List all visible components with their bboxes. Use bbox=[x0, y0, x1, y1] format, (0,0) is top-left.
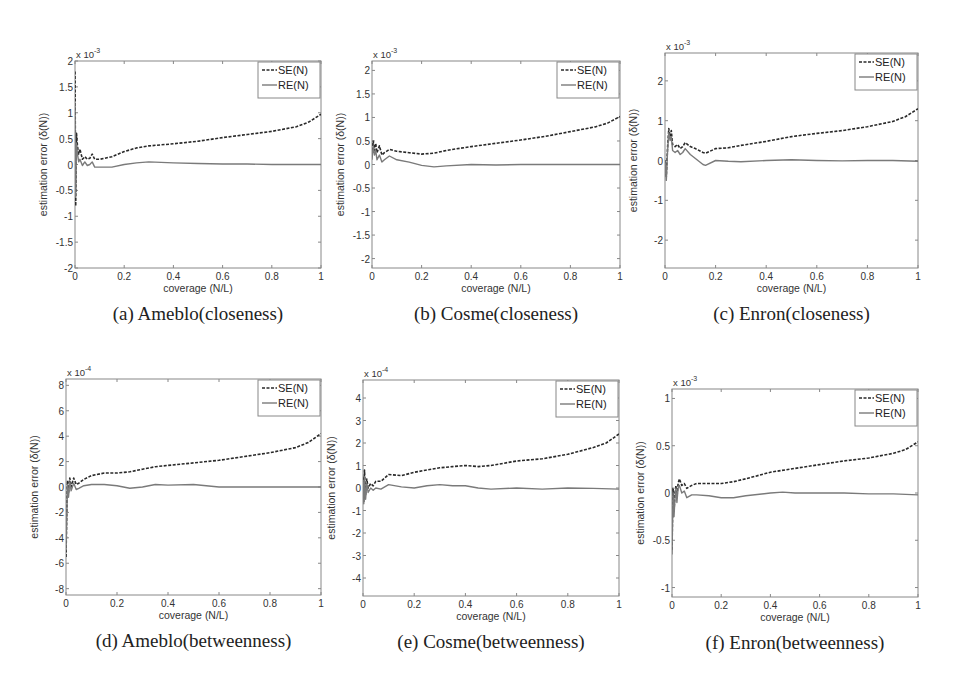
x-tick-label: 0.6 bbox=[514, 271, 528, 282]
x-tick-label: 0.8 bbox=[563, 271, 577, 282]
subplot-caption: (d) Ameblo(betweenness) bbox=[96, 630, 292, 652]
y-tick-label: -0.5 bbox=[353, 183, 371, 194]
y-tick-label: 1 bbox=[657, 116, 663, 127]
subplot-a: 00.20.40.60.81-2-1.5-1-0.500.511.52x 10-… bbox=[37, 47, 324, 325]
x-tick-label: 1 bbox=[318, 271, 324, 282]
x-tick-label: 0.8 bbox=[862, 600, 876, 611]
y-tick-label: -1 bbox=[661, 583, 670, 594]
x-tick-label: 0.4 bbox=[763, 600, 777, 611]
x-tick-label: 0 bbox=[662, 271, 668, 282]
y-tick-label: 2 bbox=[657, 76, 663, 87]
subplot-caption: (c) Enron(closeness) bbox=[713, 303, 870, 325]
axis-multiplier: x 10-3 bbox=[666, 39, 690, 52]
subplot-f: 00.20.40.60.81-1-0.500.51x 10-3coverage … bbox=[634, 375, 921, 654]
axis-multiplier: x 10-3 bbox=[673, 375, 697, 388]
subplot-b: 00.20.40.60.81-2-1.5-1-0.500.511.52x 10-… bbox=[334, 47, 623, 325]
y-tick-label: 2 bbox=[355, 438, 361, 449]
legend: SE(N)RE(N) bbox=[855, 54, 917, 90]
subplot-caption: (b) Cosme(closeness) bbox=[414, 303, 578, 325]
legend-label: RE(N) bbox=[875, 407, 906, 419]
x-tick-label: 0.4 bbox=[166, 271, 180, 282]
y-tick-label: 0 bbox=[664, 488, 670, 499]
y-tick-label: -2 bbox=[352, 528, 361, 539]
legend: SE(N)RE(N) bbox=[556, 381, 618, 417]
legend: SE(N)RE(N) bbox=[557, 62, 619, 98]
y-tick-label: -2 bbox=[64, 263, 73, 274]
y-tick-label: 1 bbox=[67, 108, 73, 119]
x-tick-label: 1 bbox=[617, 271, 623, 282]
y-tick-label: 3 bbox=[355, 416, 361, 427]
y-tick-label: 0 bbox=[364, 160, 370, 171]
legend: SE(N)RE(N) bbox=[855, 390, 917, 426]
x-tick-label: 0.6 bbox=[813, 600, 827, 611]
axis-exponent: -3 bbox=[391, 47, 397, 54]
x-tick-label: 1 bbox=[915, 600, 921, 611]
y-tick-label: 2 bbox=[58, 457, 64, 468]
y-tick-label: 1 bbox=[364, 112, 370, 123]
axis-exponent: -3 bbox=[684, 39, 690, 46]
subplot-c: 00.20.40.60.81-2-1012x 10-3coverage (N/L… bbox=[627, 39, 921, 325]
y-tick-label: 0 bbox=[67, 160, 73, 171]
y-tick-label: 2 bbox=[67, 56, 73, 67]
legend-label: SE(N) bbox=[278, 382, 308, 394]
x-axis-label: coverage (N/L) bbox=[159, 609, 228, 621]
legend-label: SE(N) bbox=[875, 392, 905, 404]
legend-label: SE(N) bbox=[278, 64, 308, 76]
subplot-e: 00.20.40.60.81-4-3-2-101234x 10-4coverag… bbox=[325, 366, 622, 653]
y-tick-label: 2 bbox=[364, 65, 370, 76]
axis-multiplier: x 10-4 bbox=[364, 366, 388, 379]
figure-canvas: 00.20.40.60.81-2-1.5-1-0.500.511.52x 10-… bbox=[0, 0, 957, 699]
legend: SE(N)RE(N) bbox=[258, 62, 320, 98]
y-tick-label: 1 bbox=[664, 393, 670, 404]
y-axis-label: estimation error (δ(N)) bbox=[28, 435, 40, 538]
legend-label: RE(N) bbox=[576, 398, 607, 410]
x-tick-label: 1 bbox=[915, 271, 921, 282]
x-tick-label: 0.2 bbox=[117, 271, 131, 282]
x-tick-label: 1 bbox=[318, 598, 324, 609]
axis-multiplier: x 10-3 bbox=[76, 47, 100, 60]
x-tick-label: 0.6 bbox=[810, 271, 824, 282]
y-tick-label: -3 bbox=[352, 551, 361, 562]
legend-label: RE(N) bbox=[577, 79, 608, 91]
subplot-d: 00.20.40.60.81-8-6-4-202468x 10-4coverag… bbox=[28, 365, 324, 652]
axis-exponent: -4 bbox=[85, 365, 91, 372]
x-axis-label: coverage (N/L) bbox=[163, 282, 232, 294]
y-tick-label: -2 bbox=[361, 254, 370, 265]
y-tick-label: -1.5 bbox=[56, 237, 74, 248]
x-tick-label: 0.4 bbox=[458, 599, 472, 610]
y-tick-label: 1.5 bbox=[59, 82, 73, 93]
y-axis-label: estimation error (δ(N)) bbox=[627, 109, 639, 212]
legend-label: SE(N) bbox=[577, 64, 607, 76]
axis-multiplier: x 10-4 bbox=[67, 365, 91, 378]
y-tick-label: -1.5 bbox=[353, 230, 371, 241]
x-tick-label: 0.8 bbox=[860, 271, 874, 282]
legend-label: RE(N) bbox=[278, 397, 309, 409]
y-tick-label: -0.5 bbox=[653, 535, 671, 546]
y-tick-label: 0 bbox=[657, 156, 663, 167]
x-tick-label: 0 bbox=[360, 599, 366, 610]
y-tick-label: 1 bbox=[355, 461, 361, 472]
x-tick-label: 0.2 bbox=[709, 271, 723, 282]
axis-multiplier: x 10-3 bbox=[373, 47, 397, 60]
y-tick-label: -6 bbox=[55, 558, 64, 569]
subplot-caption: (f) Enron(betweenness) bbox=[706, 632, 885, 654]
y-axis-label: estimation error (δ(N)) bbox=[334, 113, 346, 216]
x-tick-label: 0.8 bbox=[561, 599, 575, 610]
legend-label: RE(N) bbox=[278, 79, 309, 91]
x-tick-label: 0 bbox=[369, 271, 375, 282]
legend: SE(N)RE(N) bbox=[258, 380, 320, 416]
x-tick-label: 0.6 bbox=[216, 271, 230, 282]
x-tick-label: 0.4 bbox=[464, 271, 478, 282]
axis-exponent: -3 bbox=[691, 375, 697, 382]
y-tick-label: -1 bbox=[361, 207, 370, 218]
y-tick-label: -2 bbox=[55, 507, 64, 518]
y-tick-label: -0.5 bbox=[56, 185, 74, 196]
y-tick-label: 8 bbox=[58, 380, 64, 391]
y-tick-label: 0 bbox=[58, 482, 64, 493]
x-tick-label: 0.6 bbox=[212, 598, 226, 609]
x-tick-label: 0.2 bbox=[714, 600, 728, 611]
x-tick-label: 0.2 bbox=[407, 599, 421, 610]
x-tick-label: 0.2 bbox=[415, 271, 429, 282]
y-axis-label: estimation error (δ(N)) bbox=[37, 113, 49, 216]
y-tick-label: 0.5 bbox=[356, 136, 370, 147]
